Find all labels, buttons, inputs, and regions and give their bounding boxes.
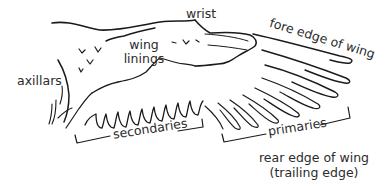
label-wing-linings-line1: wing [124, 38, 164, 51]
label-axillars: axillars [17, 74, 62, 87]
label-wrist: wrist [186, 7, 216, 20]
label-rear-edge-line1: rear edge of wing [254, 151, 374, 164]
label-wing-linings-line2: linings [120, 52, 168, 65]
wing-diagram: wrist fore edge of wing wing linings axi… [0, 0, 385, 189]
label-rear-edge-line2: (trailing edge) [254, 166, 374, 179]
